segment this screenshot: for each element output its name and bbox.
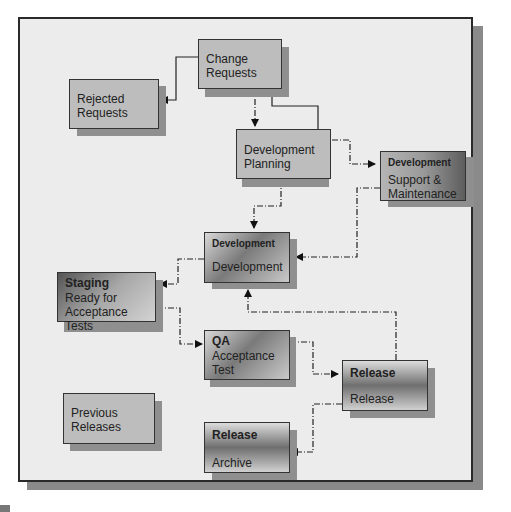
node-development[interactable]: Development Development (204, 232, 290, 283)
node-header: Development (212, 238, 282, 250)
node-label-line1: Previous (71, 406, 147, 420)
node-label-line2: Test (212, 363, 282, 377)
node-label-line1: Development (244, 143, 323, 157)
node-header: Development (388, 157, 458, 169)
corner-mark (0, 505, 10, 512)
node-header: Release (212, 428, 282, 442)
node-header: Staging (65, 276, 148, 290)
node-label-line2: Acceptance Tests (65, 305, 148, 333)
node-staging[interactable]: Staging Ready for Acceptance Tests (57, 272, 156, 322)
node-label-line2: Requests (206, 66, 274, 80)
node-label-line1: Ready for (65, 291, 148, 305)
node-label-line1: Acceptance (212, 349, 282, 363)
node-label-line2: Requests (77, 106, 151, 120)
node-header: QA (212, 334, 282, 348)
node-rejected-requests[interactable]: Rejected Requests (69, 79, 159, 129)
node-label-line1: Development (212, 260, 282, 274)
node-previous-releases[interactable]: Previous Releases (63, 393, 155, 444)
node-qa[interactable]: QA Acceptance Test (204, 330, 290, 380)
node-label-line1: Support & (388, 173, 458, 187)
node-label-line1: Change (206, 52, 274, 66)
diagram-canvas: Change Requests Rejected Requests Develo… (0, 0, 511, 512)
node-header: Release (350, 366, 420, 380)
node-archive[interactable]: Release Archive (204, 422, 290, 473)
node-label-line2: Maintenance (388, 187, 458, 201)
node-change-requests[interactable]: Change Requests (198, 39, 282, 89)
node-label-line1: Rejected (77, 92, 151, 106)
node-label-line2: Planning (244, 157, 323, 171)
node-support-maintenance[interactable]: Development Support & Maintenance (380, 151, 466, 201)
node-label-line2: Releases (71, 420, 147, 434)
node-release[interactable]: Release Release (342, 360, 428, 411)
node-development-planning[interactable]: Development Planning (236, 129, 331, 179)
node-label-line1: Archive (212, 456, 282, 470)
node-label-line1: Release (350, 392, 420, 406)
